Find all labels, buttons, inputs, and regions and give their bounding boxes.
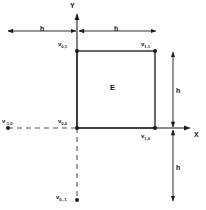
vertex-dot-top-left [75,49,79,53]
vertex-label-bottom-outer: v0,-1 [56,194,67,200]
vertex-label-top-right: v1,1 [141,41,150,47]
vertex-label-left-outer: v-1,0 [2,118,13,124]
vertex-dots [6,49,157,202]
vertex-label-bottom-left: v0,0 [58,118,67,124]
spacing-label-right-upper: h [176,87,180,94]
y-axis-label: Y [70,2,75,9]
vertex-sub-bottom-outer: 0,-1 [59,197,66,202]
vertex-sub-left-outer: -1,0 [5,121,12,126]
vertex-dot-bottom-outer [75,198,79,202]
diagram-canvas: Y X h h h h E v0,1 v1,1 v0,0 v1,0 v-1,0 … [0,0,206,210]
vertex-sub-bottom-left: 0,0 [61,121,67,126]
vertex-sub-bottom-right: 1,0 [144,136,150,141]
vertex-dot-bottom-left [75,126,79,130]
vertex-dot-bottom-right [153,126,157,130]
vertex-dot-top-right [153,49,157,53]
vertex-label-bottom-right: v1,0 [141,133,150,139]
vertex-sub-top-right: 1,1 [144,44,150,49]
spacing-label-top-left: h [40,25,44,32]
vertex-sub-top-left: 0,1 [61,44,67,49]
x-axis-label: X [194,131,199,138]
vertex-label-top-left: v0,1 [58,41,67,47]
diagram-vector-layer [0,0,206,210]
spacing-label-right-lower: h [176,164,180,171]
spacing-label-top-right: h [114,25,118,32]
cell-square [77,51,155,128]
region-label-E: E [110,84,115,92]
vertex-dot-left-outer [6,126,10,130]
